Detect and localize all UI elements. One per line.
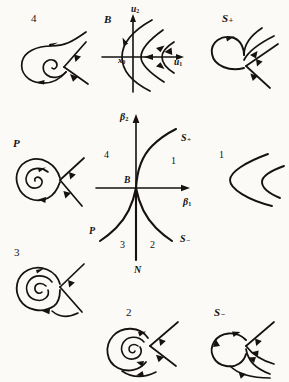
- panel-4-phase-portrait: [8, 22, 98, 92]
- bifurcation-figure: 4 B u2 u1 x0: [0, 0, 289, 382]
- panel-3-phase-portrait: [8, 256, 96, 326]
- panel-S-plus-phase-portrait: [200, 22, 288, 94]
- panel-B-phase-portrait: [100, 12, 188, 96]
- panel-S-minus-phase-portrait: [200, 316, 288, 380]
- panel-2-phase-portrait: [100, 316, 190, 382]
- panel-P-phase-portrait: [8, 148, 96, 214]
- panel-1-phase-portrait: [210, 152, 288, 208]
- parameter-plane-axes-and-curves: [94, 108, 194, 278]
